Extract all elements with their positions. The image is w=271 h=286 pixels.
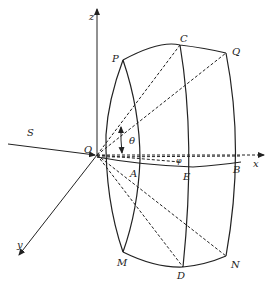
point-a-label: A (129, 168, 137, 179)
y-axis (19, 155, 97, 255)
z-axis-label: z (88, 11, 95, 22)
point-p-label: P (111, 53, 119, 64)
point-n-label: N (230, 259, 241, 270)
equator-curve (97, 157, 241, 167)
origin-label: O (84, 144, 92, 155)
theta-arrow-down (121, 140, 122, 153)
point-d-label: D (176, 270, 185, 281)
left-edge-inner (123, 60, 140, 252)
theta-label: θ (129, 135, 135, 146)
point-e-label: E (182, 171, 191, 182)
point-b-label: B (232, 164, 240, 175)
source-label: S (27, 127, 34, 138)
point-m-label: M (116, 257, 128, 268)
point-c-label: C (180, 33, 188, 44)
ray-oq (97, 53, 226, 155)
y-axis-label: y (16, 239, 23, 250)
ray-on (97, 155, 226, 256)
point-q-label: Q (232, 46, 240, 57)
bottom-edge (123, 252, 226, 267)
phi-label: φ (176, 156, 182, 165)
scattering-geometry-diagram: z y x O S θ φ P C Q A E B M D N (0, 0, 271, 286)
ray-oc (97, 45, 180, 155)
x-axis-label: x (253, 158, 259, 169)
top-edge (123, 44, 226, 60)
ray-od (97, 155, 183, 267)
incident-ray (8, 144, 95, 155)
